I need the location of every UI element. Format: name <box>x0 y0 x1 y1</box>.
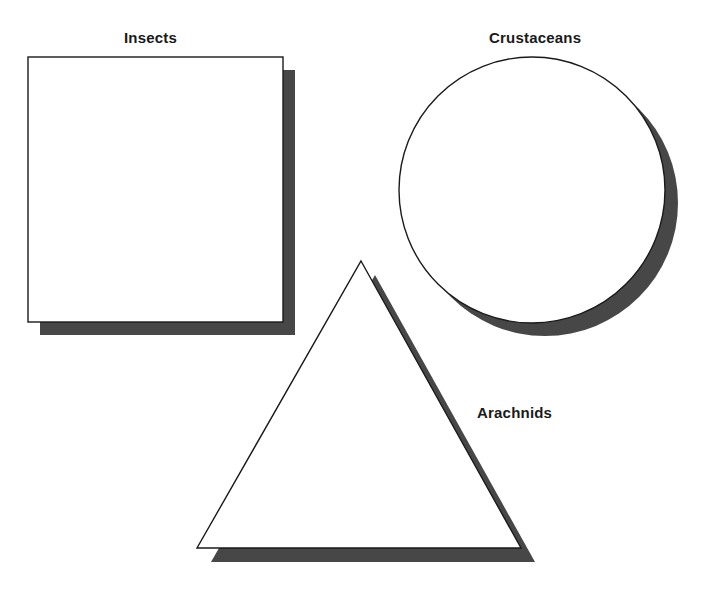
shapes-illustration <box>0 0 712 589</box>
square-shape-group[interactable] <box>28 57 295 335</box>
circle-shape-group[interactable] <box>399 57 678 336</box>
square-shape[interactable] <box>28 57 283 322</box>
square-shape-label: Insects <box>124 30 177 45</box>
circle-shape-label: Crustaceans <box>489 30 581 45</box>
figure-canvas: Insects Crustaceans Arachnids <box>0 0 712 589</box>
triangle-shape-label: Arachnids <box>477 405 552 420</box>
circle-shape[interactable] <box>399 57 665 323</box>
